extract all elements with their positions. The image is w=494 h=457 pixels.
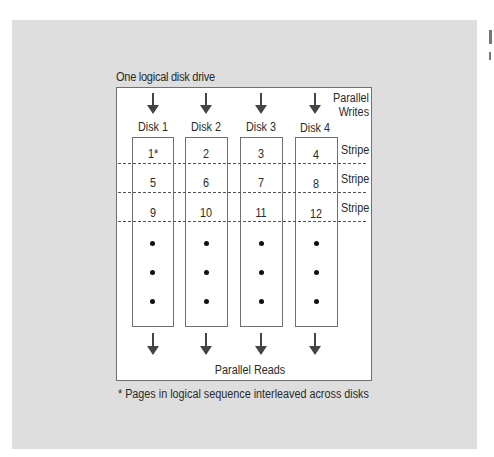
diagram-title: One logical disk drive — [116, 70, 215, 84]
page-number: 12 — [298, 207, 334, 221]
page-number: 7 — [243, 176, 279, 190]
parallel-writes-line2: Writes — [333, 105, 369, 119]
stripe-divider — [118, 221, 366, 222]
continuation-dot — [259, 241, 264, 246]
continuation-dot — [150, 241, 155, 246]
stripe-label-3: Stripe — [341, 201, 369, 215]
page-number: 6 — [188, 176, 224, 190]
page-edge-mark — [489, 30, 492, 44]
disk-label-1: Disk 1 — [135, 120, 171, 134]
continuation-dot — [150, 270, 155, 275]
continuation-dot — [150, 299, 155, 304]
continuation-dot — [314, 241, 319, 246]
continuation-dot — [259, 270, 264, 275]
page-number: 9 — [135, 206, 171, 220]
continuation-dot — [314, 299, 319, 304]
disk-label-3: Disk 3 — [243, 120, 279, 134]
continuation-dot — [314, 270, 319, 275]
stripe-label-1: Stripe — [341, 143, 369, 157]
page-number: 1* — [135, 147, 171, 161]
stripe-divider — [118, 163, 366, 164]
page-number: 5 — [135, 176, 171, 190]
disk-label-2: Disk 2 — [188, 120, 224, 134]
parallel-reads-label: Parallel Reads — [205, 363, 295, 377]
footnote: * Pages in logical sequence interleaved … — [0, 387, 494, 401]
stripe-divider — [118, 192, 366, 193]
disk-label-4: Disk 4 — [297, 121, 333, 135]
page-number: 4 — [298, 148, 334, 162]
page-number: 2 — [188, 147, 224, 161]
continuation-dot — [204, 299, 209, 304]
continuation-dot — [204, 241, 209, 246]
footnote-text: * Pages in logical sequence interleaved … — [118, 387, 369, 401]
page-number: 10 — [188, 206, 224, 220]
stripe-label-2: Stripe — [341, 172, 369, 186]
page-edge-mark — [489, 52, 491, 60]
page-number: 3 — [243, 147, 279, 161]
page-number: 11 — [243, 206, 279, 220]
continuation-dot — [204, 270, 209, 275]
parallel-writes-line1: Parallel — [333, 91, 369, 105]
continuation-dot — [259, 299, 264, 304]
page-number: 8 — [298, 177, 334, 191]
parallel-writes-label: Parallel Writes — [333, 91, 369, 119]
